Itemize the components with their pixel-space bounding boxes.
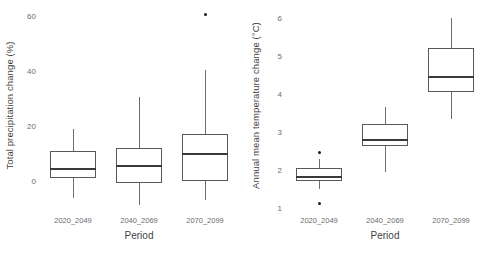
x-axis-title-right: Period (286, 230, 484, 241)
y-tick-label: 2 (278, 166, 282, 175)
whisker-upper (451, 18, 452, 49)
median-line (116, 165, 162, 167)
y-tick-label: 4 (278, 89, 282, 98)
figure-boxplot-panels: Total precipitation change (%) 0204060 2… (0, 0, 492, 264)
whisker-lower (451, 92, 452, 119)
y-axis-title-right-text: Annual mean temperature change (°C) (250, 22, 261, 189)
y-tick-label: 5 (278, 51, 282, 60)
median-line (50, 168, 96, 170)
outlier-point (318, 151, 321, 154)
x-axis-tick-labels-left: 2020_20492040_20692070_2099 (40, 216, 238, 230)
outlier-point (318, 202, 321, 205)
whisker-upper (205, 70, 206, 134)
boxplot-2020_2049 (50, 8, 96, 214)
whisker-lower (205, 181, 206, 200)
y-axis-title-left-text: Total precipitation change (%) (4, 41, 15, 169)
boxplot-2070_2099 (428, 8, 474, 214)
iqr-box (428, 48, 474, 92)
y-axis-tick-labels-right: 123456 (264, 0, 284, 264)
plot-area-left (40, 8, 238, 214)
x-axis-title-left: Period (40, 230, 238, 241)
x-tick-label: 2020_2049 (54, 216, 92, 225)
y-axis-title-left: Total precipitation change (%) (0, 0, 18, 210)
iqr-box (296, 168, 342, 181)
iqr-box (182, 134, 228, 181)
x-tick-label: 2070_2099 (432, 216, 470, 225)
panel-temperature: Annual mean temperature change (°C) 1234… (246, 0, 492, 264)
y-axis-title-right: Annual mean temperature change (°C) (246, 0, 264, 210)
median-line (362, 139, 408, 141)
x-tick-label: 2070_2099 (186, 216, 224, 225)
iqr-box (50, 151, 96, 178)
x-tick-label: 2040_2069 (120, 216, 158, 225)
whisker-upper (319, 159, 320, 169)
iqr-box (362, 124, 408, 146)
y-tick-label: 1 (278, 204, 282, 213)
boxplot-2070_2099 (182, 8, 228, 214)
median-line (428, 76, 474, 78)
y-tick-label: 20 (27, 122, 36, 131)
boxplot-2040_2069 (116, 8, 162, 214)
whisker-upper (139, 97, 140, 148)
x-tick-label: 2020_2049 (300, 216, 338, 225)
whisker-lower (139, 183, 140, 205)
whisker-upper (385, 107, 386, 124)
y-axis-tick-labels-left: 0204060 (18, 0, 38, 264)
median-line (296, 176, 342, 178)
y-tick-label: 60 (27, 12, 36, 21)
boxplot-2040_2069 (362, 8, 408, 214)
y-tick-label: 0 (32, 177, 36, 186)
whisker-lower (319, 181, 320, 189)
whisker-upper (73, 129, 74, 151)
whisker-lower (385, 146, 386, 172)
panel-precipitation: Total precipitation change (%) 0204060 2… (0, 0, 246, 264)
plot-area-right (286, 8, 484, 214)
x-tick-label: 2040_2069 (366, 216, 404, 225)
x-axis-tick-labels-right: 2020_20492040_20692070_2099 (286, 216, 484, 230)
y-tick-label: 40 (27, 67, 36, 76)
boxplot-2020_2049 (296, 8, 342, 214)
whisker-lower (73, 178, 74, 197)
outlier-point (204, 13, 207, 16)
median-line (182, 153, 228, 155)
y-tick-label: 6 (278, 13, 282, 22)
y-tick-label: 3 (278, 127, 282, 136)
